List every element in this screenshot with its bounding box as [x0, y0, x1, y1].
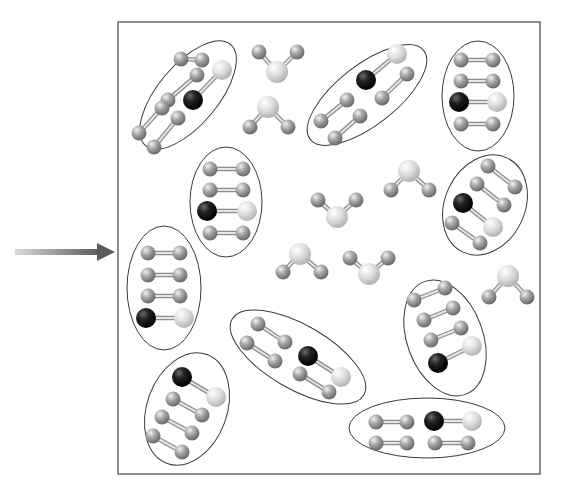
gray-atom — [203, 162, 218, 177]
central-light-atom — [326, 206, 348, 228]
gray-atom — [268, 354, 283, 369]
cluster-mid-left — [190, 147, 262, 257]
gray-atom — [508, 180, 523, 195]
light-atom — [331, 367, 351, 387]
light-atom — [174, 308, 194, 328]
arrow-shaft — [15, 249, 99, 255]
gray-atom — [520, 290, 535, 305]
diatomic-molecule — [141, 289, 188, 304]
gray-atom — [278, 335, 293, 350]
gray-atom — [314, 114, 329, 129]
cluster-top-left — [123, 25, 254, 165]
gray-atom — [155, 101, 170, 116]
gray-atom — [240, 336, 255, 351]
input-arrow — [15, 243, 115, 261]
cluster-ellipse — [216, 291, 380, 422]
arrow-head-icon — [97, 243, 115, 261]
gray-atom — [369, 415, 384, 430]
heteronuclear-molecule — [136, 308, 194, 328]
light-atom — [212, 60, 232, 80]
gray-atom — [185, 426, 200, 441]
heteronuclear-molecule — [424, 411, 482, 431]
gray-atom — [486, 117, 501, 132]
gray-atom — [470, 177, 485, 192]
cluster-ellipse — [292, 27, 442, 163]
central-light-atom — [497, 265, 519, 287]
gray-atom — [203, 226, 218, 241]
diatomic-molecule — [454, 74, 501, 89]
gray-atom — [473, 236, 488, 251]
gray-atom — [252, 45, 267, 60]
diatomic-molecule — [146, 429, 190, 460]
diatomic-molecule — [174, 52, 210, 68]
gray-atom — [173, 246, 188, 261]
gray-atom — [132, 126, 147, 141]
dark-atom — [449, 92, 469, 112]
dark-atom — [424, 411, 444, 431]
central-light-atom — [289, 243, 311, 265]
dark-atom — [136, 308, 156, 328]
gray-atom — [173, 289, 188, 304]
gray-atom — [428, 436, 443, 451]
light-atom — [206, 387, 226, 407]
gray-atom — [311, 193, 326, 208]
gray-atom — [243, 120, 258, 135]
gray-atom — [155, 410, 170, 425]
cluster-top-center — [292, 27, 442, 163]
cluster-top-right — [442, 41, 514, 151]
gray-atom — [174, 52, 189, 67]
dark-atom — [298, 346, 318, 366]
water-7 — [482, 265, 535, 305]
cluster-ellipse — [127, 226, 201, 350]
gray-atom — [251, 317, 266, 332]
gray-atom — [422, 183, 437, 198]
dark-atom — [172, 367, 192, 387]
gray-atom — [171, 111, 186, 126]
gray-atom — [236, 162, 251, 177]
dark-atom — [453, 193, 473, 213]
diatomic-molecule — [369, 436, 415, 451]
gray-atom — [314, 265, 329, 280]
gray-atom — [290, 45, 305, 60]
gray-atom — [190, 68, 205, 83]
gray-atom — [146, 429, 161, 444]
cluster-center-bottom — [216, 291, 380, 422]
light-atom — [462, 336, 482, 356]
gray-atom — [486, 74, 501, 89]
gray-atom — [446, 301, 461, 316]
gray-atom — [195, 53, 210, 68]
diatomic-molecule — [141, 268, 188, 283]
cluster-bottom-left — [130, 341, 245, 477]
water-5 — [276, 243, 329, 280]
gray-atom — [353, 109, 368, 124]
central-light-atom — [266, 61, 288, 83]
dark-atom — [183, 90, 203, 110]
gray-atom — [276, 265, 291, 280]
cluster-right-mid — [427, 141, 543, 269]
gray-atom — [147, 140, 162, 155]
dark-atom — [356, 70, 376, 90]
gray-atom — [203, 183, 218, 198]
central-light-atom — [257, 96, 279, 118]
diatomic-molecule — [454, 117, 501, 132]
gray-atom — [141, 246, 156, 261]
gray-atom — [175, 445, 190, 460]
gray-atom — [384, 183, 399, 198]
gray-atom — [375, 91, 390, 106]
gray-atom — [381, 251, 396, 266]
diatomic-molecule — [424, 321, 469, 348]
diatomic-molecule — [155, 410, 200, 441]
gray-atom — [486, 53, 501, 68]
diatomic-molecule — [240, 336, 283, 369]
light-atom — [387, 44, 407, 64]
dark-atom — [197, 201, 217, 221]
gray-atom — [141, 268, 156, 283]
gray-atom — [417, 313, 432, 328]
gray-atom — [236, 183, 251, 198]
gray-atom — [454, 117, 469, 132]
gray-atom — [236, 226, 251, 241]
diatomic-molecule — [445, 216, 488, 251]
gray-atom — [454, 321, 469, 336]
gray-atom — [173, 268, 188, 283]
gray-atom — [349, 193, 364, 208]
